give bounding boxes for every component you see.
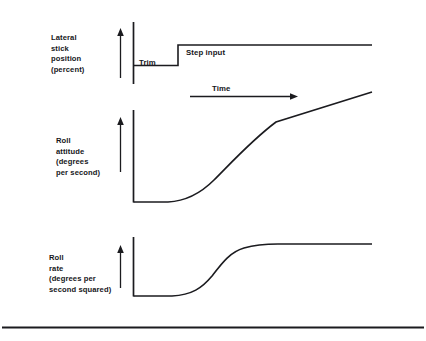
- panel2-axis-label: Roll attitude (degrees per second): [56, 136, 100, 178]
- step-input-label: Step input: [186, 48, 225, 57]
- panel1-axis-label: Lateral stick position (percent): [51, 33, 84, 75]
- panel-roll-rate: [117, 237, 372, 297]
- roll-attitude-curve: [134, 92, 373, 202]
- up-arrow-icon-panel2: [117, 117, 124, 172]
- time-axis-arrow: [190, 93, 298, 100]
- step-input-curve: [134, 45, 373, 66]
- panel-lateral-stick-position: [117, 22, 372, 84]
- panel3-axis-label: Roll rate (degrees per second squared): [49, 253, 111, 295]
- figure-container: Lateral stick position (percent) Trim St…: [0, 0, 426, 341]
- time-label: Time: [212, 84, 230, 93]
- up-arrow-icon-panel1: [117, 28, 124, 78]
- panel-roll-attitude: [117, 92, 372, 203]
- roll-rate-curve: [134, 244, 373, 296]
- up-arrow-icon-panel3: [117, 245, 124, 288]
- trim-label: Trim: [139, 58, 156, 67]
